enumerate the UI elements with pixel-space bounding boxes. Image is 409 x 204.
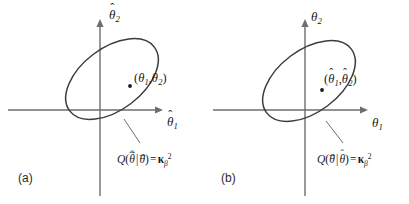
leader-line-a <box>124 119 140 143</box>
center-point-label-a: (θ1,θ2) <box>134 72 167 86</box>
center-point-marker-a <box>128 84 132 88</box>
y-axis-label-a: ̂θ2 <box>109 8 120 24</box>
x-axis-label-a: ̂θ1 <box>167 115 178 131</box>
panel-caption-b: (b) <box>221 172 236 184</box>
x-axis-label-b: θ1 <box>372 116 383 132</box>
figure-root: ̂θ2 ̂θ1 (θ1,θ2) Q(→̂θ|→θ)=κβ2 (a) <box>0 0 409 204</box>
panel-a: ̂θ2 ̂θ1 (θ1,θ2) Q(→̂θ|→θ)=κβ2 (a) <box>0 0 204 204</box>
center-point-marker-b <box>320 88 324 92</box>
contour-formula-a: Q(→̂θ|→θ)=κβ2 <box>117 153 172 167</box>
panel-caption-a: (a) <box>18 172 33 184</box>
x-axis-b <box>213 106 368 113</box>
center-point-label-b: (̂θ1,̂θ2) <box>324 73 357 87</box>
x-axis-a <box>8 106 163 113</box>
leader-line-b <box>326 121 343 143</box>
panel-b: θ2 θ1 (̂θ1,̂θ2) Q(→θ|̂θ)=κβ2 (b) <box>205 0 409 204</box>
contour-formula-b: Q(→θ|̂θ)=κβ2 <box>317 153 372 167</box>
y-axis-label-b: θ2 <box>311 10 322 26</box>
y-axis-a <box>96 19 103 196</box>
